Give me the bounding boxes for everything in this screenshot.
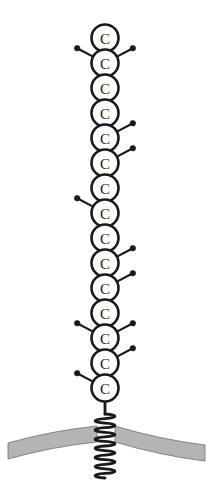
anchor-helix: [95, 414, 115, 478]
chain-node: C: [92, 250, 119, 277]
chain-node: C: [92, 50, 119, 77]
chain-node-label: C: [100, 356, 110, 372]
diagram-canvas: CCCCCCCCCCCCCCC: [0, 0, 212, 497]
side-branch-terminal-dot: [130, 45, 136, 51]
chain-node: C: [92, 75, 119, 102]
chain-node: C: [92, 300, 119, 327]
side-branch-terminal-dot: [74, 320, 80, 326]
side-branch-terminal-dot: [130, 145, 136, 151]
chain-node-label: C: [100, 131, 110, 147]
chain-node: C: [92, 200, 119, 227]
side-branch-terminal-dot: [130, 320, 136, 326]
chain-node-label: C: [100, 256, 110, 272]
chain-node: C: [92, 100, 119, 127]
chain-node-label: C: [100, 106, 110, 122]
side-branch-terminal-dot: [130, 345, 136, 351]
chain-node: C: [92, 175, 119, 202]
chain-node: C: [92, 25, 119, 52]
chain-node: C: [92, 375, 119, 402]
chain-node-label: C: [100, 81, 110, 97]
chain-node-label: C: [100, 156, 110, 172]
side-branch-terminal-dot: [74, 195, 80, 201]
chain-node-label: C: [100, 181, 110, 197]
chain-node: C: [92, 125, 119, 152]
chain-node-label: C: [100, 31, 110, 47]
chain-node-label: C: [100, 331, 110, 347]
chain-node-label: C: [100, 281, 110, 297]
side-branch-terminal-dot: [74, 45, 80, 51]
chain-node-label: C: [100, 381, 110, 397]
chain-node: C: [92, 150, 119, 177]
chain-node-label: C: [100, 231, 110, 247]
side-branch-terminal-dot: [130, 270, 136, 276]
chain-node-label: C: [100, 56, 110, 72]
side-branch-terminal-dot: [74, 370, 80, 376]
chain-node: C: [92, 350, 119, 377]
chain-node: C: [92, 275, 119, 302]
side-branch-terminal-dot: [130, 245, 136, 251]
chain-node: C: [92, 225, 119, 252]
side-branch-terminal-dot: [130, 120, 136, 126]
chain-node-label: C: [100, 206, 110, 222]
chain-node: C: [92, 325, 119, 352]
carbon-chain-group: CCCCCCCCCCCCCCC: [92, 25, 119, 402]
figure-root: CCCCCCCCCCCCCCC: [0, 0, 212, 497]
chain-node-label: C: [100, 306, 110, 322]
